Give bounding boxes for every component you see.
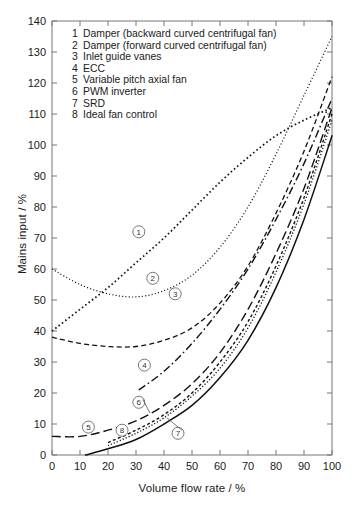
curve-marker-2: 2 xyxy=(147,272,159,284)
marker-label-1: 1 xyxy=(137,228,142,237)
axis-frame-outer xyxy=(52,21,332,455)
marker-label-4: 4 xyxy=(142,361,147,370)
curve-1 xyxy=(52,108,332,331)
axis-frame xyxy=(52,21,332,455)
marker-label-5: 5 xyxy=(86,423,91,432)
curve-marker-8: 8 xyxy=(116,424,128,436)
curve-marker-5: 5 xyxy=(82,421,94,433)
curve-5 xyxy=(52,108,332,437)
curve-4 xyxy=(139,99,332,390)
curve-marker-3: 3 xyxy=(169,288,181,300)
plot-area: 12345678 xyxy=(0,0,355,509)
curve-marker-7: 7 xyxy=(172,427,184,439)
marker-label-8: 8 xyxy=(120,426,125,435)
fan-control-chart: Mains input / % Volume flow rate / % 010… xyxy=(0,0,355,509)
marker-label-7: 7 xyxy=(176,429,181,438)
curve-6 xyxy=(108,114,332,443)
curve-3 xyxy=(52,77,332,347)
curve-2 xyxy=(52,37,332,298)
curve-marker-4: 4 xyxy=(138,359,150,371)
leader-line-6 xyxy=(143,399,150,413)
marker-label-3: 3 xyxy=(173,290,178,299)
marker-label-2: 2 xyxy=(151,274,156,283)
marker-label-6: 6 xyxy=(137,398,142,407)
curve-marker-1: 1 xyxy=(133,226,145,238)
curve-marker-6: 6 xyxy=(133,396,145,408)
